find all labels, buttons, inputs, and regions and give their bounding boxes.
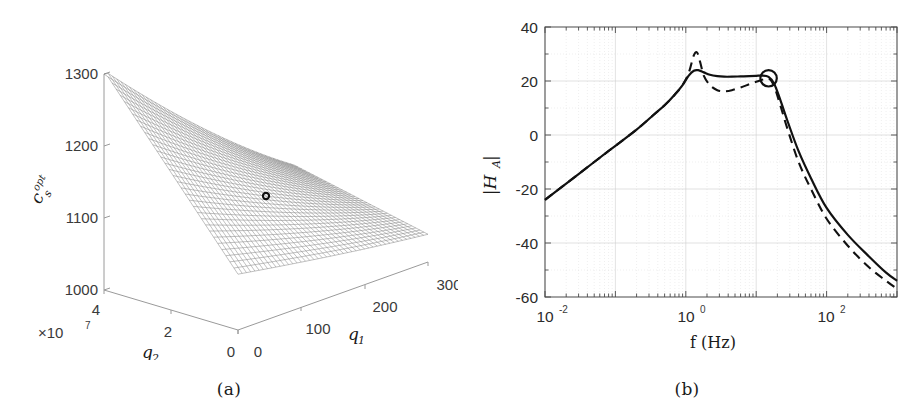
panel-b-svg: 40 20 0 -20 -40 -60 10 -2 10 0 10 2 |H A: [458, 0, 916, 360]
panel-b-yaxis-label-main: |H: [480, 174, 500, 196]
panel-b-xtick-1e0: 10 0: [677, 304, 706, 325]
panel-a-yaxis-label: q 2: [142, 342, 159, 360]
panel-a-zaxis-label: c s opt: [25, 172, 60, 209]
panel-b-frequency-response-plot: 40 20 0 -20 -40 -60 10 -2 10 0 10 2 |H A: [458, 0, 916, 405]
panel-b-xtick-1e-2: 10 -2: [536, 304, 568, 325]
panel-b-ticks: [545, 27, 897, 297]
panel-a-ztick-1200: 1200: [65, 137, 98, 154]
panel-a-xtick-100: 100: [305, 320, 330, 337]
panel-b-xtick-1e2: 10 2: [817, 304, 846, 325]
panel-a-xaxis-label: q 1: [348, 324, 365, 347]
panel-b-xtick-1e-2-exponent: -2: [559, 304, 568, 315]
panel-b-ytick-0: 0: [529, 127, 538, 144]
panel-a-ytick-2: 2: [164, 323, 172, 340]
panel-b-xtick-1e0-exponent: 0: [700, 304, 706, 315]
panel-a-ytick-4: 4: [92, 301, 100, 318]
panel-b-ytick-20: 20: [521, 73, 539, 90]
panel-a-axes: [104, 40, 428, 334]
panel-a-yaxis-label-sub: 2: [151, 352, 159, 360]
panel-b-ytick-neg20: -20: [516, 181, 539, 198]
panel-a-xtick-300: 300: [436, 276, 458, 293]
panel-a-surface-plot: 1300 1200 1100 1000 4 2 0 0 100 200 300 …: [0, 0, 458, 405]
panel-b-xtick-1e2-mantissa: 10: [817, 308, 835, 325]
panel-b-caption: (b): [458, 379, 916, 399]
panel-a-caption: (a): [0, 379, 458, 399]
panel-a-ztick-1300: 1300: [65, 65, 98, 82]
panel-a-xaxis-label-sub: 1: [358, 334, 365, 347]
panel-b-ytick-neg40: -40: [516, 235, 539, 252]
figure-container: 1300 1200 1100 1000 4 2 0 0 100 200 300 …: [0, 0, 916, 405]
panel-b-xtick-1e-2-mantissa: 10: [536, 308, 554, 325]
panel-b-major-grid: [545, 27, 897, 297]
panel-b-xtick-1e2-exponent: 2: [840, 304, 846, 315]
panel-b-plot-frame: [545, 27, 897, 297]
panel-a-xtick-0: 0: [254, 343, 262, 360]
curve-nominal-dashed: [545, 52, 897, 289]
panel-a-exponent-power: 7: [85, 320, 91, 331]
panel-b-ytick-40: 40: [521, 19, 539, 36]
panel-a-ytick-0: 0: [227, 343, 235, 360]
panel-b-ytick-neg60: -60: [516, 289, 539, 306]
panel-a-ztick-1000: 1000: [65, 281, 98, 298]
panel-a-y-exponent: ×10 7: [38, 320, 91, 341]
panel-a-ztick-1100: 1100: [66, 209, 98, 226]
panel-b-minor-grid: [545, 27, 897, 297]
panel-b-xaxis-label: f (Hz): [690, 333, 736, 352]
panel-b-yaxis-label-tail: |: [480, 155, 500, 161]
design-point-circle-marker: [760, 70, 776, 86]
panel-a-xtick-200: 200: [372, 298, 397, 315]
panel-b-yaxis-label: |H A |: [480, 155, 503, 195]
curve-optimized-solid: [545, 70, 897, 281]
panel-b-xtick-1e0-mantissa: 10: [677, 308, 695, 325]
panel-a-svg: 1300 1200 1100 1000 4 2 0 0 100 200 300 …: [0, 0, 458, 360]
panel-a-exponent-mantissa: ×10: [38, 324, 63, 341]
surface-mesh: [104, 73, 428, 274]
